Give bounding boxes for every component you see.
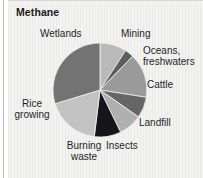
- pie-label-burning-waste: Burning waste: [62, 140, 106, 162]
- pie-label-oceans-freshwaters: Oceans, freshwaters: [143, 45, 201, 67]
- pie-label-burning-line1: Burning: [67, 140, 101, 151]
- pie-label-wetlands: Wetlands: [40, 28, 82, 39]
- pie-label-burning-line2: waste: [71, 151, 97, 162]
- pie-chart-svg: [52, 42, 148, 138]
- pie-label-oceans-line1: Oceans,: [143, 45, 180, 56]
- page-left-rule: [3, 0, 4, 178]
- pie-label-rice-growing: Rice growing: [10, 98, 54, 120]
- pie-label-cattle: Cattle: [147, 79, 173, 90]
- pie-label-rice-line1: Rice: [22, 98, 42, 109]
- chart-title: Methane: [16, 6, 59, 18]
- pie-label-mining: Mining: [121, 28, 150, 39]
- methane-pie-figure: Methane Wetlands Mining Oceans, freshwat…: [0, 0, 203, 178]
- pie-label-insects: Insects: [106, 140, 138, 151]
- chart-panel-top-edge: [8, 0, 203, 1]
- pie-label-oceans-line2: freshwaters: [143, 56, 195, 67]
- pie-slice-group: [53, 43, 147, 137]
- pie-label-rice-line2: growing: [14, 109, 49, 120]
- pie-chart: [52, 42, 148, 138]
- pie-label-landfill: Landfill: [139, 117, 171, 128]
